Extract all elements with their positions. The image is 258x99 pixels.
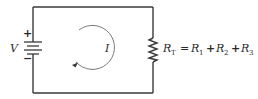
current-label: I: [104, 42, 110, 55]
series-circuit-diagram: + V − I R T = R 1 + R 2 + R 3: [0, 0, 258, 99]
resistor-icon: [149, 38, 157, 62]
formula-plus-2: +: [231, 42, 240, 55]
formula-r1-subscript: 1: [199, 49, 203, 57]
battery-positive-sign: +: [23, 27, 32, 40]
circuit-wires: [33, 7, 153, 93]
current-arrowhead-icon: [72, 63, 78, 68]
formula-r2-symbol: R: [215, 42, 224, 55]
battery-voltage-label: V: [10, 42, 19, 55]
formula-r2-subscript: 2: [224, 49, 228, 57]
formula-rt-subscript: T: [171, 49, 176, 57]
formula-r3-subscript: 3: [249, 49, 253, 57]
formula-plus-1: +: [206, 42, 215, 55]
formula-r1-symbol: R: [190, 42, 199, 55]
total-resistance-formula: R T = R 1 + R 2 + R 3: [162, 42, 253, 57]
formula-rt-symbol: R: [162, 42, 171, 55]
battery-negative-sign: −: [23, 52, 32, 65]
formula-r3-symbol: R: [240, 42, 249, 55]
formula-equals: =: [180, 42, 189, 55]
